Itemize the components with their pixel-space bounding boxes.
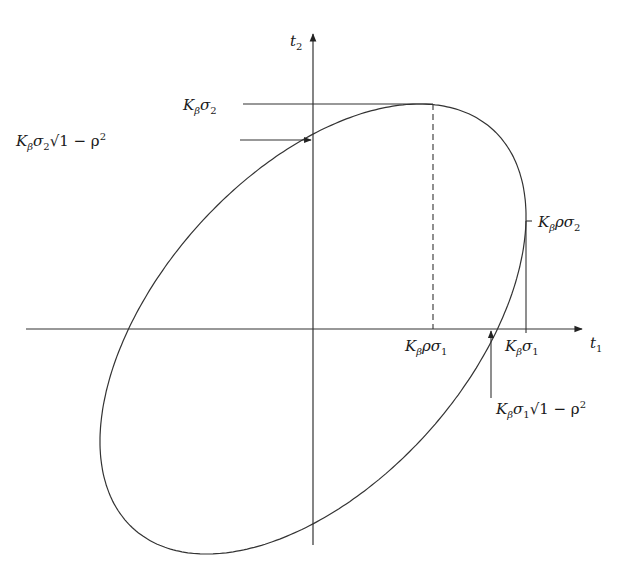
label-top: Kβσ2 [182,96,217,116]
t1-label: t1 [590,334,602,354]
label-y-intercept: Kβσ2√1 − ρ2 [15,131,106,152]
label-x-intercept: Kβσ1√1 − ρ2 [495,399,586,420]
ellipse-diagram: t2 t1 Kβσ2 Kβσ2√1 − ρ2 Kβρσ2 Kβρσ1 Kβσ1 … [0,0,634,567]
t2-label: t2 [290,32,302,52]
label-x-max: Kβσ1 [504,337,539,357]
label-x-rho: Kβρσ1 [404,337,447,357]
label-right: Kβρσ2 [537,213,580,233]
